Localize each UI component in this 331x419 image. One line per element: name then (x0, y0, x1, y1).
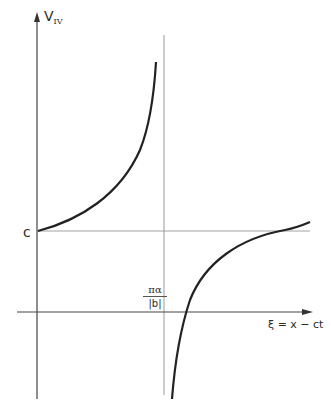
curve-left-branch (38, 62, 156, 231)
c-label: c (23, 224, 31, 240)
curve-right-branch (172, 222, 310, 399)
x-axis-arrow-icon (302, 309, 313, 315)
traveling-wave-diagram: VIV c πα |b| ξ = x − ct (0, 0, 331, 419)
y-axis-label: VIV (44, 8, 63, 26)
y-axis-arrow-icon (34, 12, 40, 22)
asymptote-label-numerator: πα (143, 284, 167, 297)
plot-canvas (0, 0, 331, 419)
x-axis-label: ξ = x − ct (268, 318, 323, 331)
asymptote-label-denominator: |b| (143, 297, 167, 309)
asymptote-label: πα |b| (143, 284, 167, 309)
